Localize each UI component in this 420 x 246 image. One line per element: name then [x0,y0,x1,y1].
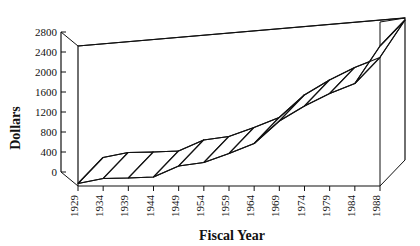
y-tick-label: 0 [52,166,58,178]
x-tick-group: 1929193419391944194919541959196419691974… [68,186,382,217]
chart-container: 040080012001600200024002800 192919341939… [0,0,420,246]
y-tick-label: 2400 [35,46,58,58]
ribbon-segment [279,80,329,121]
x-tick-label: 1934 [93,195,105,218]
ribbon-right-cap [380,20,405,46]
x-tick-label: 1959 [219,195,231,218]
x-tick-label: 1929 [68,195,80,218]
x-tick-label: 1949 [169,195,181,218]
x-tick-label: 1974 [295,195,307,218]
x-tick-label: 1979 [320,195,332,218]
x-tick-label: 1939 [118,195,130,218]
x-tick-label: 1964 [244,195,256,218]
x-tick-label: 1969 [269,195,281,218]
y-tick-label: 2000 [35,66,58,78]
y-tick-label: 400 [41,146,58,158]
y-axis-depth-connector-top [61,32,78,46]
x-tick-label: 1944 [144,195,156,218]
area-chart-3d: 040080012001600200024002800 192919341939… [0,0,420,246]
y-axis-title: Dollars [8,106,23,150]
y-tick-label: 1200 [35,106,58,118]
x-tick-label: 1954 [194,195,206,218]
y-tick-label: 1600 [35,86,58,98]
y-tick-label: 2800 [35,26,58,38]
back-wall-top-edge [78,18,405,46]
x-tick-label: 1988 [370,195,382,218]
y-axis-depth-connector-bottom [61,172,78,186]
cropped-title-remnant [0,0,420,9]
x-tick-label: 1984 [345,195,357,218]
right-depth-connector-bottom [380,160,405,186]
data-ribbon [78,20,405,184]
y-tick-label: 800 [41,126,58,138]
x-axis-title: Fiscal Year [199,228,265,243]
